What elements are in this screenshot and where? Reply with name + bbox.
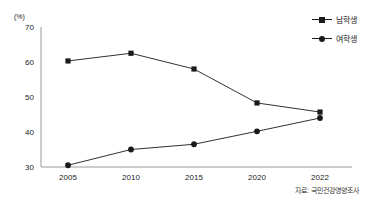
x-tick-label: 2010 xyxy=(111,173,151,182)
plot-area xyxy=(0,0,365,201)
y-tick-label: 30 xyxy=(14,163,34,172)
y-tick-label: 40 xyxy=(14,128,34,137)
x-tick-label: 2015 xyxy=(174,173,214,182)
data-point-marker[interactable] xyxy=(317,109,322,114)
y-tick-label: 60 xyxy=(14,58,34,67)
data-point-marker[interactable] xyxy=(128,147,134,153)
source-note: 자료: 국민건강영양조사 xyxy=(295,185,359,195)
data-point-marker[interactable] xyxy=(317,115,323,121)
y-tick-label: 70 xyxy=(14,23,34,32)
data-point-marker[interactable] xyxy=(254,100,259,105)
y-tick-label: 50 xyxy=(14,93,34,102)
data-point-marker[interactable] xyxy=(254,128,260,134)
data-point-marker[interactable] xyxy=(65,162,71,168)
line-chart: (%) 남학생 여학생 7060504030 20052010201520202… xyxy=(0,0,365,201)
series-line-male xyxy=(68,53,320,112)
data-point-marker[interactable] xyxy=(191,66,196,71)
x-tick-label: 2022 xyxy=(300,173,340,182)
data-point-marker[interactable] xyxy=(128,51,133,56)
data-point-marker[interactable] xyxy=(191,141,197,147)
x-tick-label: 2020 xyxy=(237,173,277,182)
x-tick-label: 2005 xyxy=(48,173,88,182)
data-point-marker[interactable] xyxy=(65,58,70,63)
